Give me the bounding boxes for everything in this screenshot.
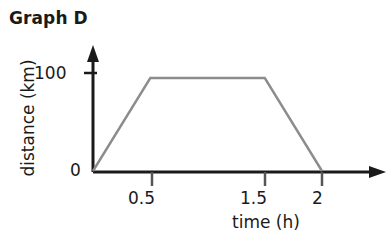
axes-group: [84, 45, 386, 186]
plot-area: [0, 0, 389, 238]
distance-time-line: [93, 78, 322, 171]
x-axis-arrowhead: [369, 166, 386, 178]
chart-figure: Graph D distance (km) time (h) 100 0 0.5…: [0, 0, 389, 238]
y-axis-arrowhead: [87, 45, 99, 62]
